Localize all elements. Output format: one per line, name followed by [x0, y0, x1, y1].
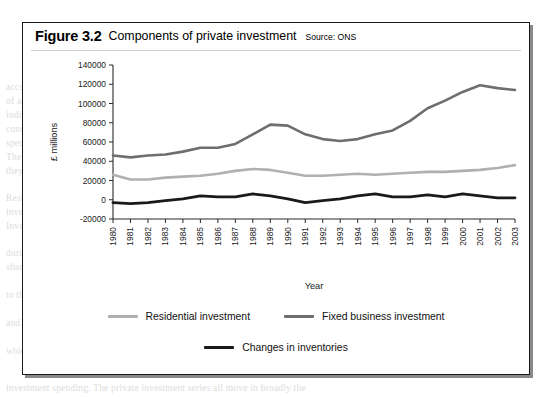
legend-item-fixed-business: Fixed business investment — [284, 311, 444, 322]
line-chart: -200000200004000060000800001000001200001… — [23, 51, 531, 313]
figure-title: Components of private investment — [109, 29, 297, 43]
legend-swatch-inventories — [204, 346, 234, 350]
figure-source: Source: ONS — [306, 32, 357, 42]
legend-swatch-residential — [108, 315, 138, 318]
svg-text:2000: 2000 — [458, 227, 468, 246]
svg-text:80000: 80000 — [83, 118, 107, 128]
svg-text:£ millions: £ millions — [49, 122, 59, 161]
bleed-line: investment spending. The private investm… — [6, 383, 306, 393]
svg-text:1996: 1996 — [388, 227, 398, 246]
svg-text:1999: 1999 — [440, 227, 450, 246]
svg-text:1982: 1982 — [143, 227, 153, 246]
figure-box: Figure 3.2 Components of private investm… — [22, 22, 530, 375]
svg-text:1990: 1990 — [283, 227, 293, 246]
svg-text:1998: 1998 — [423, 227, 433, 246]
svg-text:140000: 140000 — [78, 60, 106, 70]
svg-text:1981: 1981 — [125, 227, 135, 246]
svg-text:1986: 1986 — [213, 227, 223, 246]
svg-text:1983: 1983 — [160, 227, 170, 246]
svg-text:2001: 2001 — [475, 227, 485, 246]
svg-text:-20000: -20000 — [80, 214, 106, 224]
svg-text:1989: 1989 — [265, 227, 275, 246]
svg-text:2002: 2002 — [493, 227, 503, 246]
series-changes-in-inventories — [113, 194, 515, 204]
svg-text:1991: 1991 — [300, 227, 310, 246]
chart-plot-area: -200000200004000060000800001000001200001… — [23, 51, 529, 313]
series-fixed-business-investment — [113, 85, 515, 157]
legend-item-inventories: Changes in inventories — [204, 342, 348, 353]
svg-text:1988: 1988 — [248, 227, 258, 246]
svg-text:2003: 2003 — [510, 227, 520, 246]
svg-text:Year: Year — [305, 281, 324, 291]
series-residential-investment — [113, 165, 515, 179]
svg-text:1984: 1984 — [178, 227, 188, 246]
svg-text:1985: 1985 — [195, 227, 205, 246]
svg-text:1995: 1995 — [370, 227, 380, 246]
svg-text:1980: 1980 — [108, 227, 118, 246]
chart-legend: Residential investment Fixed business in… — [23, 311, 529, 353]
svg-text:1997: 1997 — [405, 227, 415, 246]
svg-text:1993: 1993 — [335, 227, 345, 246]
legend-label-inventories: Changes in inventories — [242, 342, 348, 353]
figure-caption: Figure 3.2 Components of private investm… — [23, 23, 529, 49]
svg-text:120000: 120000 — [78, 79, 106, 89]
svg-text:20000: 20000 — [83, 176, 107, 186]
svg-text:1987: 1987 — [230, 227, 240, 246]
legend-label-fixed-business: Fixed business investment — [322, 311, 444, 322]
legend-label-residential: Residential investment — [146, 311, 251, 322]
svg-text:0: 0 — [101, 195, 106, 205]
svg-text:1994: 1994 — [353, 227, 363, 246]
svg-text:100000: 100000 — [78, 99, 106, 109]
legend-swatch-fixed-business — [284, 315, 314, 318]
svg-text:60000: 60000 — [83, 137, 107, 147]
legend-item-residential: Residential investment — [108, 311, 251, 322]
svg-text:40000: 40000 — [83, 156, 107, 166]
figure-number: Figure 3.2 — [35, 28, 102, 44]
svg-text:1992: 1992 — [318, 227, 328, 246]
